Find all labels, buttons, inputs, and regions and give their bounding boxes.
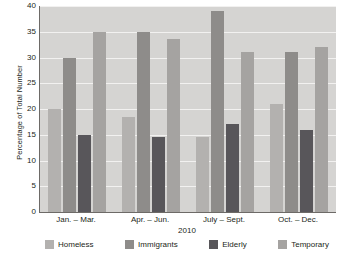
plot-area bbox=[39, 6, 336, 213]
bar-homeless[interactable] bbox=[270, 104, 283, 212]
bar-temporary[interactable] bbox=[241, 52, 254, 212]
legend-label: Temporary bbox=[291, 240, 329, 249]
x-axis-title: 2010 bbox=[39, 226, 335, 235]
y-axis-tick-label: 30 bbox=[27, 54, 36, 62]
bar-homeless[interactable] bbox=[196, 137, 209, 212]
bar-temporary[interactable] bbox=[315, 47, 328, 212]
legend-label: Homeless bbox=[58, 240, 94, 249]
bar-chart-figure: Percentage of Total Number 4035302520151… bbox=[0, 0, 341, 260]
legend-swatch-icon bbox=[209, 240, 218, 249]
y-axis-tick-label: 5 bbox=[32, 182, 36, 190]
y-axis-tick-label: 20 bbox=[27, 105, 36, 113]
bar-immigrants[interactable] bbox=[137, 32, 150, 212]
bar-group bbox=[114, 6, 188, 212]
y-axis-tick-label: 35 bbox=[27, 28, 36, 36]
bar-homeless[interactable] bbox=[48, 109, 61, 212]
bar-groups bbox=[40, 6, 336, 212]
y-axis-tick-label: 10 bbox=[27, 157, 36, 165]
chart-title bbox=[0, 0, 341, 1]
legend-item-temporary[interactable]: Temporary bbox=[278, 240, 329, 249]
x-axis-tick-label: Jan. – Mar. bbox=[39, 215, 113, 224]
bar-group bbox=[40, 6, 114, 212]
bar-elderly[interactable] bbox=[78, 135, 91, 212]
legend-label: Immigrants bbox=[138, 240, 178, 249]
chart-legend: HomelessImmigrantsElderlyTemporary bbox=[39, 240, 335, 249]
y-axis-tick-label: 15 bbox=[27, 131, 36, 139]
bar-group bbox=[188, 6, 262, 212]
y-axis-tick-labels: 4035302520151050 bbox=[16, 6, 36, 212]
x-axis-tick-label: July – Sept. bbox=[187, 215, 261, 224]
bar-group bbox=[262, 6, 336, 212]
legend-label: Elderly bbox=[222, 240, 246, 249]
legend-item-elderly[interactable]: Elderly bbox=[209, 240, 246, 249]
legend-swatch-icon bbox=[45, 240, 54, 249]
bar-homeless[interactable] bbox=[122, 117, 135, 212]
bar-immigrants[interactable] bbox=[285, 52, 298, 212]
y-axis-tick-label: 40 bbox=[27, 2, 36, 10]
bar-temporary[interactable] bbox=[167, 39, 180, 212]
legend-swatch-icon bbox=[125, 240, 134, 249]
x-axis-tick-labels: Jan. – Mar.Apr. – Jun.July – Sept.Oct. –… bbox=[39, 215, 335, 224]
bar-elderly[interactable] bbox=[300, 130, 313, 212]
y-axis-tick-label: 0 bbox=[32, 208, 36, 216]
legend-item-homeless[interactable]: Homeless bbox=[45, 240, 94, 249]
legend-item-immigrants[interactable]: Immigrants bbox=[125, 240, 178, 249]
bar-temporary[interactable] bbox=[93, 32, 106, 212]
y-axis-tick-label: 25 bbox=[27, 79, 36, 87]
bar-elderly[interactable] bbox=[226, 124, 239, 212]
legend-swatch-icon bbox=[278, 240, 287, 249]
x-axis-tick-label: Apr. – Jun. bbox=[113, 215, 187, 224]
bar-elderly[interactable] bbox=[152, 137, 165, 212]
x-axis-tick-label: Oct. – Dec. bbox=[261, 215, 335, 224]
bar-immigrants[interactable] bbox=[211, 11, 224, 212]
bar-immigrants[interactable] bbox=[63, 58, 76, 213]
